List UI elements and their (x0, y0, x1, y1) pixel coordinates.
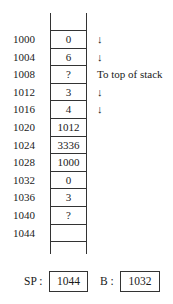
address-label: 1004 (13, 49, 35, 65)
stack-cell-1012: 3 (51, 83, 86, 101)
stack-cell-1032: 0 (51, 171, 86, 189)
sp-register-value: 1044 (49, 271, 88, 292)
address-label: 1008 (13, 66, 35, 82)
stack-cell-1008: ? (51, 65, 86, 83)
stack-cell-1016: 4 (51, 100, 86, 118)
stack-cell-1024: 3336 (51, 136, 86, 154)
address-label: 1040 (13, 207, 35, 223)
down-arrow-icon: ↓ (97, 31, 103, 47)
address-label: 1012 (13, 84, 35, 100)
address-label: 1028 (13, 154, 35, 170)
top-of-stack-annotation: To top of stack (97, 66, 163, 82)
stack-cell-1004: 6 (51, 48, 86, 66)
stack-cell-1028: 1000 (51, 153, 86, 171)
b-register-label: B : (100, 271, 114, 291)
stack-cell-1040: ? (51, 206, 86, 224)
stack-cell-1044 (51, 224, 86, 242)
down-arrow-icon: ↓ (97, 101, 103, 117)
stack-memory-column: 0 6 ? 3 4 1012 3336 1000 0 3 ? (50, 13, 87, 254)
address-label: 1036 (13, 189, 35, 205)
b-register-value: 1032 (120, 271, 160, 292)
address-label: 1032 (13, 172, 35, 188)
sp-register-label: SP : (24, 271, 42, 291)
address-label: 1020 (13, 119, 35, 135)
stack-cell-extra (51, 241, 86, 259)
address-label: 1024 (13, 137, 35, 153)
stack-cell-1036: 3 (51, 188, 86, 206)
stack-cell-1000: 0 (51, 30, 86, 48)
stack-cell-1020: 1012 (51, 118, 86, 136)
address-label: 1000 (13, 31, 35, 47)
address-label: 1016 (13, 101, 35, 117)
down-arrow-icon: ↓ (97, 84, 103, 100)
down-arrow-icon: ↓ (97, 49, 103, 65)
address-label: 1044 (13, 225, 35, 241)
